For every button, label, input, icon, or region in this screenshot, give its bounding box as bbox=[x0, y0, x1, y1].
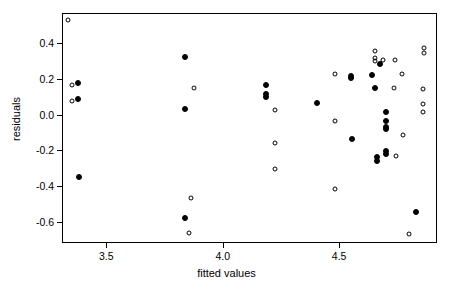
data-point-open bbox=[273, 141, 278, 146]
data-point-open bbox=[400, 71, 405, 76]
y-tick-label: -0.4 bbox=[36, 180, 54, 192]
data-point-open bbox=[421, 87, 426, 92]
data-point-open bbox=[422, 51, 427, 56]
data-point-open bbox=[401, 132, 406, 137]
y-tick bbox=[57, 43, 62, 44]
data-point-open bbox=[421, 109, 426, 114]
data-point-filled bbox=[182, 106, 188, 112]
x-tick bbox=[106, 243, 107, 248]
x-tick-label: 4.5 bbox=[332, 250, 347, 262]
data-point-open bbox=[186, 231, 191, 236]
y-axis-label: residuals bbox=[10, 59, 22, 179]
data-point-open bbox=[332, 71, 337, 76]
data-point-filled bbox=[263, 94, 269, 100]
data-point-open bbox=[391, 86, 396, 91]
data-point-open bbox=[191, 85, 196, 90]
x-tick-label: 3.5 bbox=[99, 250, 114, 262]
data-point-open bbox=[70, 98, 75, 103]
data-point-filled bbox=[182, 54, 188, 60]
data-point-open bbox=[332, 118, 337, 123]
y-tick bbox=[57, 222, 62, 223]
y-tick-label: -0.6 bbox=[36, 216, 54, 228]
y-tick-label: 0.2 bbox=[39, 73, 54, 85]
data-point-filled bbox=[182, 215, 188, 221]
data-point-filled bbox=[383, 109, 389, 115]
data-point-open bbox=[421, 102, 426, 107]
x-axis-label: fitted values bbox=[0, 267, 453, 279]
data-point-open bbox=[373, 48, 378, 53]
y-tick-label: 0.4 bbox=[39, 37, 54, 49]
data-point-open bbox=[273, 107, 278, 112]
y-tick-label: -0.2 bbox=[36, 144, 54, 156]
x-tick bbox=[339, 243, 340, 248]
data-point-open bbox=[273, 167, 278, 172]
y-tick bbox=[57, 186, 62, 187]
data-point-open bbox=[407, 231, 412, 236]
data-point-filled bbox=[369, 72, 375, 78]
data-point-open bbox=[189, 196, 194, 201]
data-point-filled bbox=[75, 96, 81, 102]
data-point-filled bbox=[383, 151, 389, 157]
data-point-filled bbox=[75, 80, 81, 86]
data-point-open bbox=[65, 18, 70, 23]
data-point-open bbox=[332, 187, 337, 192]
data-point-filled bbox=[374, 158, 380, 164]
scatter-plot: 0.40.20.0-0.2-0.4-0.63.54.04.5 residuals… bbox=[0, 0, 453, 293]
x-tick bbox=[223, 243, 224, 248]
data-point-filled bbox=[76, 174, 82, 180]
data-point-open bbox=[70, 82, 75, 87]
data-point-filled bbox=[348, 73, 354, 79]
y-tick-label: 0.0 bbox=[39, 109, 54, 121]
data-point-open bbox=[394, 153, 399, 158]
data-point-filled bbox=[314, 100, 320, 106]
data-point-filled bbox=[383, 126, 389, 132]
data-point-open bbox=[393, 57, 398, 62]
data-point-filled bbox=[372, 85, 378, 91]
x-tick-label: 4.0 bbox=[215, 250, 230, 262]
y-tick bbox=[57, 115, 62, 116]
y-tick bbox=[57, 150, 62, 151]
data-point-filled bbox=[263, 82, 269, 88]
data-point-filled bbox=[377, 61, 383, 67]
data-point-filled bbox=[349, 136, 355, 142]
data-point-filled bbox=[413, 209, 419, 215]
y-tick bbox=[57, 79, 62, 80]
